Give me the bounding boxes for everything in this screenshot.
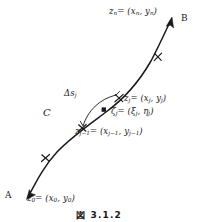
contour-curve-diagram bbox=[0, 0, 198, 222]
label-zeta-j-rhs: = (ξ bbox=[118, 106, 136, 116]
label-z-n-rhs-mid: , y bbox=[139, 6, 150, 16]
delta-s-leader-tail-left bbox=[81, 122, 84, 127]
label-z-j: zj= (xj, yj) bbox=[124, 94, 166, 104]
curve-name-label: C bbox=[43, 108, 51, 118]
label-zeta-j-rhs-end: ) bbox=[150, 106, 153, 116]
label-delta-s-j-lhs: Δs bbox=[64, 88, 75, 98]
label-z-j-minus-1-rhs-sub2: j−1 bbox=[129, 130, 139, 136]
label-z-j-rhs-mid: , y bbox=[151, 93, 162, 103]
label-z-j-minus-1-rhs-sub1: j−1 bbox=[108, 130, 118, 136]
label-z-j-minus-1: zj−1= (xj−1, yj−1) bbox=[75, 127, 143, 137]
figure-caption: 図 3.1.2 bbox=[0, 211, 198, 222]
label-z-n-rhs-end: ) bbox=[154, 6, 157, 16]
label-z-n: zn= (xn, yn) bbox=[109, 7, 157, 17]
delta-s-leader-tail-right bbox=[116, 92, 120, 96]
label-delta-s-j-sub: j bbox=[75, 92, 77, 98]
endpoint-label-b: B bbox=[181, 14, 188, 23]
label-z-0-rhs-end: ) bbox=[71, 193, 74, 203]
label-zeta-j: ζj= (ξj, ηj) bbox=[111, 107, 154, 117]
label-z-j-minus-1-rhs-end: ) bbox=[139, 126, 142, 136]
label-z-j-minus-1-lhs-sub: j−1 bbox=[80, 130, 90, 136]
tick-mark-icon bbox=[154, 53, 161, 60]
label-z-j-rhs-end: ) bbox=[163, 93, 166, 103]
label-z-n-rhs: = (x bbox=[117, 6, 135, 16]
tick-mark-icon bbox=[42, 155, 50, 162]
label-z-0-rhs-mid: , y bbox=[57, 193, 68, 203]
label-z-0-rhs: = (x bbox=[35, 193, 53, 203]
label-z-j-rhs: = (x bbox=[130, 93, 148, 103]
label-zeta-j-rhs-mid: , η bbox=[138, 106, 149, 116]
figure-3-1-2: zn= (xn, yn) B Δsj zj= (xj, yj) C ζj= (ξ… bbox=[0, 0, 198, 222]
label-delta-s-j: Δsj bbox=[64, 89, 77, 99]
label-z-j-minus-1-rhs-mid: , y bbox=[119, 126, 130, 136]
endpoint-label-a: A bbox=[5, 191, 12, 200]
label-z-j-minus-1-rhs: = (x bbox=[90, 126, 108, 136]
label-z-0: z0= (x0, y0) bbox=[27, 194, 75, 204]
sample-point-zeta-j-marker bbox=[102, 107, 106, 111]
